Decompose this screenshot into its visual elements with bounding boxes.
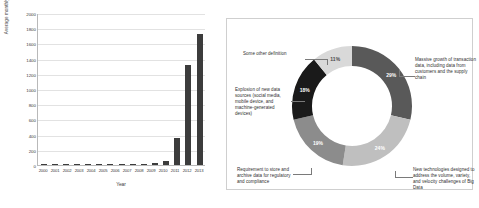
leader-line-new-technologies-vertical	[395, 171, 396, 178]
leader-line-requirement-vertical	[311, 168, 312, 175]
x-tick-label: 2007	[121, 168, 133, 173]
bar-wrapper	[116, 14, 127, 165]
bar-wrapper	[49, 14, 60, 165]
y-tick-label: 1600	[14, 42, 36, 47]
bar[interactable]	[174, 138, 180, 165]
y-tick-label: 1000	[14, 88, 36, 93]
callout-massive-growth: Massive growth of transaction data, incl…	[415, 57, 477, 81]
bar[interactable]	[63, 164, 69, 165]
bar-wrapper	[161, 14, 172, 165]
donut-segment-percentage: 11%	[330, 56, 340, 62]
bar-wrapper	[105, 14, 116, 165]
y-tick-label: 800	[14, 103, 36, 108]
bar[interactable]	[107, 164, 113, 165]
donut-segment-percentage: 19%	[313, 140, 324, 146]
bar-chart-plot-area	[37, 14, 205, 166]
leader-line-massive-growth-vertical	[399, 70, 400, 77]
x-tick-label: 2009	[145, 168, 157, 173]
x-tick-label: 2010	[157, 168, 169, 173]
x-tick-label: 2012	[181, 168, 193, 173]
bar[interactable]	[163, 161, 169, 165]
x-tick-label: 2003	[73, 168, 85, 173]
donut-chart-frame: 29%24%19%18%11% Some other definition Ex…	[226, 18, 473, 190]
callout-new-technologies: New technologies designed to address the…	[413, 167, 477, 191]
donut-chart-svg: 29%24%19%18%11%	[289, 43, 415, 169]
y-tick-label: 600	[14, 118, 36, 123]
donut-chart-panel: 29%24%19%18%11% Some other definition Ex…	[220, 0, 479, 208]
y-tick-label: 1800	[14, 27, 36, 32]
bar-wrapper	[60, 14, 71, 165]
bar-wrapper	[71, 14, 82, 165]
bar[interactable]	[197, 34, 203, 165]
bar[interactable]	[130, 164, 136, 165]
bar[interactable]	[74, 164, 80, 165]
donut-segment[interactable]	[343, 115, 411, 166]
x-tick-label: 2011	[169, 168, 181, 173]
bar-chart-panel: Average monthly frequency 2000 1800 1600…	[0, 0, 214, 208]
callout-some-other-definition: Some other definition	[243, 51, 305, 57]
donut-segment[interactable]	[352, 46, 412, 120]
bar-chart-x-axis-label: Year	[37, 182, 205, 187]
y-tick-label: 0	[14, 164, 36, 169]
x-tick-label: 2001	[49, 168, 61, 173]
leader-line-requirement	[293, 174, 311, 175]
bar[interactable]	[85, 164, 91, 165]
bar-series	[38, 14, 205, 165]
bar-wrapper	[138, 14, 149, 165]
x-tick-label: 2004	[85, 168, 97, 173]
bar-wrapper	[149, 14, 160, 165]
callout-requirement-to-store: Requirement to store and archive data fo…	[237, 167, 293, 185]
bar[interactable]	[119, 164, 125, 165]
y-tick-label: 2000	[14, 12, 36, 17]
bar-chart-y-tick-labels: 2000 1800 1600 1400 1200 1000 800 600 40…	[14, 14, 36, 166]
bar[interactable]	[41, 164, 47, 165]
x-tick-label: 2000	[37, 168, 49, 173]
donut-segment-percentage: 24%	[375, 145, 386, 151]
y-tick-label: 1400	[14, 57, 36, 62]
bar[interactable]	[96, 164, 102, 165]
y-tick-label: 1200	[14, 72, 36, 77]
x-tick-label: 2005	[97, 168, 109, 173]
bar-wrapper	[194, 14, 205, 165]
bar-wrapper	[38, 14, 49, 165]
leader-line-some-other-definition	[305, 59, 327, 60]
bar[interactable]	[152, 163, 158, 165]
bar-wrapper	[127, 14, 138, 165]
donut-segment-percentage: 29%	[386, 72, 397, 78]
x-tick-label: 2008	[133, 168, 145, 173]
callout-explosion-of-new-data-sources: Explosion of new data sources (social me…	[235, 87, 291, 117]
x-tick-label: 2002	[61, 168, 73, 173]
leader-line-some-other-definition-vertical	[327, 59, 328, 65]
bar-wrapper	[183, 14, 194, 165]
bar-wrapper	[94, 14, 105, 165]
donut-segment-percentage: 18%	[300, 87, 311, 93]
x-tick-label: 2013	[193, 168, 205, 173]
bar[interactable]	[141, 164, 147, 165]
x-tick-label: 2006	[109, 168, 121, 173]
bar-wrapper	[172, 14, 183, 165]
figure-page: Average monthly frequency 2000 1800 1600…	[0, 0, 479, 208]
leader-line-massive-growth	[399, 76, 415, 77]
bar-wrapper	[83, 14, 94, 165]
leader-line-new-technologies	[395, 177, 413, 178]
bar-chart-x-tick-labels: 2000200120022003200420052006200720082009…	[37, 168, 205, 173]
bar[interactable]	[52, 164, 58, 165]
y-tick-label: 200	[14, 148, 36, 153]
bar[interactable]	[185, 65, 191, 165]
y-tick-label: 400	[14, 133, 36, 138]
leader-line-explosion	[291, 101, 305, 102]
